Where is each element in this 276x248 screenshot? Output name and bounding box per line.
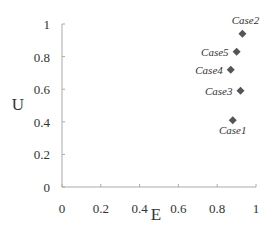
y-tick-label: 0.8 [34,50,50,65]
x-tick-label: 0.8 [209,201,225,216]
point-label: Case4 [195,64,223,76]
diamond-marker [229,116,237,124]
x-tick-label: 1 [253,201,260,216]
scatter-chart: 00.20.40.60.8100.20.40.60.81 E U Case1Ca… [0,0,276,248]
x-tick-label: 0.6 [170,201,187,216]
y-axis-label: U [12,95,24,114]
diamond-marker [233,48,241,56]
point-label: Case1 [219,124,247,136]
y-tick-label: 0 [44,180,51,195]
y-tick-label: 1 [44,17,51,32]
x-tick-label: 0.2 [93,201,109,216]
y-tick-label: 0.2 [34,147,50,162]
y-tick-label: 0.4 [34,115,51,130]
x-tick-label: 0.4 [131,201,148,216]
diamond-marker [236,87,244,95]
x-tick-label: 0 [59,201,66,216]
point-label: Case2 [232,14,260,26]
data-points: Case1Case2Case3Case4Case5 [195,14,259,136]
x-axis-label: E [151,205,161,224]
point-label: Case3 [205,85,233,97]
diamond-marker [238,30,246,38]
y-tick-label: 0.6 [34,82,51,97]
point-label: Case5 [201,46,229,58]
diamond-marker [227,66,235,74]
